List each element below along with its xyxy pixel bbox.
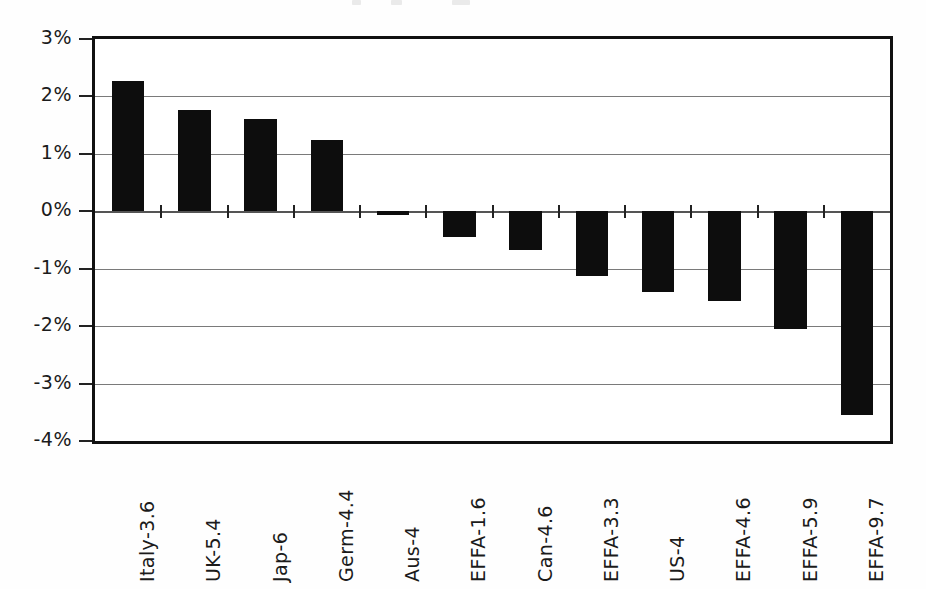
y-axis-label: -3%: [2, 371, 72, 393]
x-axis-label: Can-4.6: [534, 505, 556, 582]
y-axis-label: 0%: [2, 198, 72, 220]
x-axis-tick: [690, 205, 692, 218]
y-axis-label: -4%: [2, 428, 72, 450]
bar: [443, 211, 475, 237]
y-axis-label: -1%: [2, 256, 72, 278]
bar: [576, 211, 608, 275]
x-axis-tick: [624, 205, 626, 218]
y-axis-label: 1%: [2, 141, 72, 163]
bar: [178, 110, 210, 211]
x-axis-tick: [558, 205, 560, 218]
x-axis-label: Aus-4: [401, 526, 423, 582]
x-axis-tick: [293, 205, 295, 218]
x-axis-label: EFFA-9.7: [865, 497, 887, 582]
x-axis-tick: [160, 205, 162, 218]
x-axis-label: Italy-3.6: [136, 500, 158, 582]
x-axis-tick: [425, 205, 427, 218]
bar: [774, 211, 806, 329]
bar: [841, 211, 873, 415]
x-axis-tick: [359, 205, 361, 218]
y-axis-tick: [79, 210, 92, 212]
gridline: [95, 96, 890, 97]
y-axis-tick: [79, 383, 92, 385]
bar: [642, 211, 674, 291]
y-axis-tick: [79, 95, 92, 97]
y-axis-label: 2%: [2, 83, 72, 105]
plot-area: [92, 36, 893, 444]
x-axis-tick: [492, 205, 494, 218]
y-axis-tick: [79, 38, 92, 40]
scan-artifact: [352, 0, 361, 5]
x-axis-tick: [823, 205, 825, 218]
gridline: [95, 326, 890, 327]
y-axis-tick: [79, 440, 92, 442]
y-axis-tick: [79, 325, 92, 327]
scan-artifact: [452, 0, 470, 5]
x-axis-label: US-4: [666, 535, 688, 582]
x-axis-tick: [757, 205, 759, 218]
bar: [708, 211, 740, 301]
x-axis-label: EFFA-5.9: [799, 497, 821, 582]
x-axis-label: EFFA-3.3: [600, 497, 622, 582]
bar: [112, 81, 144, 211]
bar: [377, 211, 409, 215]
x-axis-tick: [227, 205, 229, 218]
y-axis-tick: [79, 268, 92, 270]
y-axis-label: 3%: [2, 26, 72, 48]
x-axis-label: EFFA-1.6: [467, 497, 489, 582]
y-axis-tick: [79, 153, 92, 155]
gridline: [95, 154, 890, 155]
x-axis-label: UK-5.4: [202, 518, 224, 582]
x-axis-label: EFFA-4.6: [732, 497, 754, 582]
bar: [244, 119, 276, 211]
y-axis-label: -2%: [2, 313, 72, 335]
x-axis-label: Jap-6: [269, 532, 291, 582]
bar: [311, 140, 343, 212]
gridline: [95, 269, 890, 270]
x-axis-label: Germ-4.4: [335, 489, 357, 582]
bar: [509, 211, 541, 249]
scan-artifact: [391, 0, 402, 5]
gridline: [95, 384, 890, 385]
bar-chart-figure: 3%2%1%0%-1%-2%-3%-4% Italy-3.6UK-5.4Jap-…: [0, 0, 926, 589]
